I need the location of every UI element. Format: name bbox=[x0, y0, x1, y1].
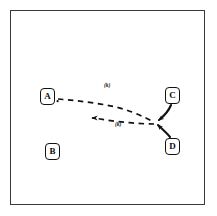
node-c[interactable]: C bbox=[165, 87, 180, 104]
edge-label-upper: (k) bbox=[104, 83, 110, 89]
node-a-label: A bbox=[44, 92, 51, 101]
figure-canvas: A B C D (k) (k) bbox=[0, 0, 217, 216]
node-d[interactable]: D bbox=[165, 138, 180, 155]
ink-dot-near-a bbox=[57, 100, 59, 102]
edge-label-lower: (k) bbox=[115, 122, 121, 128]
node-b[interactable]: B bbox=[45, 143, 60, 160]
node-b-label: B bbox=[49, 147, 55, 156]
edge-d-to-junction-path bbox=[158, 125, 170, 137]
edge-a-to-junction-path bbox=[58, 99, 154, 122]
edge-c-to-junction-path bbox=[159, 105, 171, 120]
edge-junction-to-left-path bbox=[92, 118, 154, 124]
node-d-label: D bbox=[169, 142, 176, 151]
node-a[interactable]: A bbox=[40, 88, 55, 105]
node-c-label: C bbox=[169, 91, 176, 100]
figure-graphics bbox=[0, 0, 217, 216]
